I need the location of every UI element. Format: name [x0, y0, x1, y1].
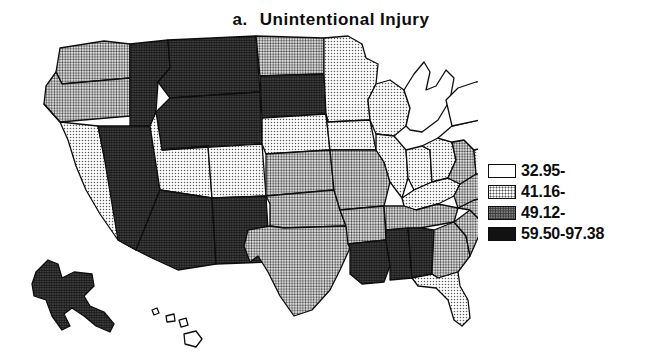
state-HI-3: [179, 318, 188, 327]
legend-row: 59.50-97.38: [488, 224, 656, 243]
legend-label: 59.50-97.38: [521, 225, 604, 243]
legend-swatch-icon: [488, 164, 516, 178]
state-WY: [156, 92, 262, 150]
state-MI: [404, 62, 454, 132]
legend-label: 49.12-: [521, 204, 565, 222]
state-MO: [330, 150, 390, 210]
page-title: a.Unintentional Injury: [0, 10, 662, 30]
state-KS: [266, 150, 334, 196]
state-NE: [262, 114, 330, 154]
state-OK: [266, 190, 346, 228]
legend-swatch-icon: [488, 206, 516, 220]
legend-row: 32.95-: [488, 161, 656, 180]
panel-letter: a.: [233, 10, 248, 29]
state-HI-2: [166, 314, 175, 322]
state-HI: [152, 308, 159, 315]
state-MT: [158, 36, 260, 98]
state-AR: [340, 206, 386, 244]
state-FL: [412, 272, 470, 326]
rate-class-legend: 32.95- 41.16- 49.12- 59.50-97.38: [488, 161, 656, 245]
legend-label: 41.16-: [521, 183, 565, 201]
legend-row: 49.12-: [488, 203, 656, 222]
title-text: Unintentional Injury: [260, 10, 430, 29]
state-TX: [244, 226, 350, 316]
legend-swatch-icon: [488, 185, 516, 199]
state-SD: [260, 74, 326, 118]
state-WI: [368, 80, 410, 136]
state-AL: [408, 228, 434, 278]
state-AK: [32, 260, 114, 332]
us-map-svg: [18, 34, 478, 349]
state-LA: [348, 240, 390, 284]
state-HI-4: [184, 331, 202, 347]
legend-label: 32.95-: [521, 162, 565, 180]
us-map: [18, 34, 478, 349]
legend-row: 41.16-: [488, 182, 656, 201]
state-WA: [56, 41, 130, 84]
state-ND: [256, 36, 324, 76]
legend-swatch-icon: [488, 227, 516, 241]
choropleth-figure: a.Unintentional Injury: [0, 0, 662, 355]
